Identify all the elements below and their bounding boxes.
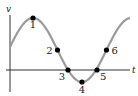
velocity-time-diagram: v t 123456	[0, 0, 138, 96]
point-2-label: 2	[46, 45, 52, 56]
point-2-marker	[55, 47, 60, 52]
point-6-label: 6	[112, 45, 118, 56]
point-1-label: 1	[30, 19, 36, 30]
point-5-marker	[94, 67, 99, 72]
v-axis-label: v	[6, 4, 11, 14]
point-5-label: 5	[100, 71, 106, 82]
point-6-marker	[104, 47, 109, 52]
point-3-label: 3	[59, 71, 65, 82]
t-axis-label: t	[132, 65, 136, 75]
point-3-marker	[65, 67, 70, 72]
point-4-label: 4	[79, 84, 85, 95]
